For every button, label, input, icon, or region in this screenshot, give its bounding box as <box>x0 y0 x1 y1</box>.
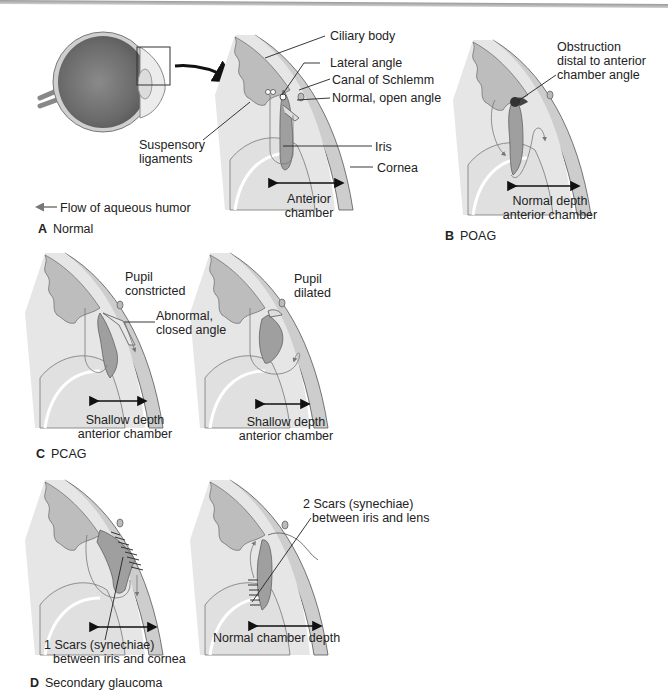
legend-flow-of-aqueous-humor: Flow of aqueous humor <box>60 201 191 215</box>
label-cornea: Cornea <box>377 161 418 175</box>
eyeball-illustration <box>40 32 170 132</box>
panel-b-caption: BPOAG <box>445 229 496 243</box>
panel-d-caption: DSecondary glaucoma <box>30 676 162 690</box>
panel-c-letter: C <box>36 447 45 461</box>
label-normal-depth-line1: Normal depth <box>500 194 600 208</box>
label-suspensory-ligaments-line1: Suspensory <box>139 138 205 152</box>
panel-c-caption: CPCAG <box>36 447 86 461</box>
label-obstruction-line3: chamber angle <box>557 68 640 82</box>
label-shallow-depth-left-line1: Shallow depth <box>75 413 175 427</box>
panel-d-letter: D <box>30 676 39 690</box>
label-pupil-dilated-line2: dilated <box>294 286 331 300</box>
label-obstruction-line1: Obstruction <box>557 40 621 54</box>
panel-c-title: PCAG <box>51 447 86 461</box>
label-pupil-constricted-line2: constricted <box>125 284 185 298</box>
label-shallow-depth-left-line2: anterior chamber <box>75 427 175 441</box>
label-normal-depth-line2: anterior chamber <box>500 208 600 222</box>
label-shallow-depth-right-line2: anterior chamber <box>236 429 336 443</box>
panel-a-letter: A <box>38 222 47 236</box>
label-anterior-chamber-line2: chamber <box>278 206 340 220</box>
label-scars-iris-lens-line1: 2 Scars (synechiae) <box>303 497 413 511</box>
label-closed-angle-line1: Abnormal, <box>156 309 213 323</box>
label-anterior-chamber-line1: Anterior <box>278 192 340 206</box>
label-scars-iris-lens-line2: between iris and lens <box>312 511 429 525</box>
label-scars-iris-cornea-line1: 1 Scars (synechiae) <box>44 638 154 652</box>
label-pupil-constricted-line1: Pupil <box>125 270 153 284</box>
label-scars-iris-cornea-line2: between iris and cornea <box>53 652 186 666</box>
panel-d-title: Secondary glaucoma <box>45 676 162 690</box>
label-normal-chamber-depth: Normal chamber depth <box>213 631 340 645</box>
label-canal-of-schlemm: Canal of Schlemm <box>332 73 434 87</box>
label-closed-angle-line2: closed angle <box>156 323 226 337</box>
panel-a-title: Normal <box>53 222 93 236</box>
panel-b-letter: B <box>445 229 454 243</box>
label-normal-open-angle: Normal, open angle <box>332 91 441 105</box>
panel-b-title: POAG <box>460 229 496 243</box>
label-ciliary-body: Ciliary body <box>330 29 395 43</box>
label-obstruction-line2: distal to anterior <box>557 54 646 68</box>
label-lateral-angle: Lateral angle <box>330 56 402 70</box>
label-pupil-dilated-line1: Pupil <box>294 272 322 286</box>
label-shallow-depth-right-line1: Shallow depth <box>236 415 336 429</box>
label-iris: Iris <box>375 140 392 154</box>
panel-a-caption: ANormal <box>38 222 93 236</box>
label-suspensory-ligaments-line2: ligaments <box>139 152 193 166</box>
